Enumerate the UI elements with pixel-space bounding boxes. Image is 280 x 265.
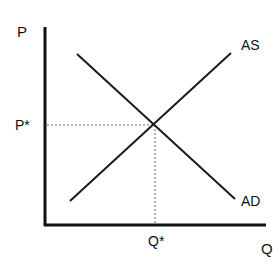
ad-curve-label: AD [241,194,260,208]
ad-curve [77,54,235,199]
as-ad-diagram [0,0,280,265]
as-curve-label: AS [241,38,260,52]
equilibrium-price-label: P* [15,118,30,132]
x-axis-label: Q [261,241,273,256]
as-curve [70,53,231,201]
equilibrium-quantity-label: Q* [148,234,164,248]
y-axis-label: P [17,24,27,39]
